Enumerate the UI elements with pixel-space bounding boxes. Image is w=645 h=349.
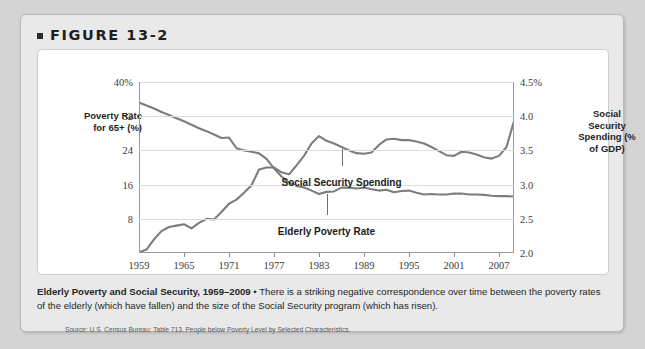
right-axis-tick-label: 3.0 xyxy=(520,179,533,190)
x-axis-tick-label: 1971 xyxy=(219,260,240,271)
left-axis-tick-label: 32 xyxy=(123,111,134,122)
caption-separator: • xyxy=(251,286,260,297)
right-axis-tick-label: 4.5% xyxy=(520,77,542,88)
x-axis-tick-label: 1965 xyxy=(174,260,195,271)
x-axis-tick-mark xyxy=(229,253,230,257)
x-axis-tick-mark xyxy=(319,253,320,257)
x-axis-tick-label: 1977 xyxy=(264,260,285,271)
plot-top-border xyxy=(139,82,514,83)
x-axis-tick-mark xyxy=(499,253,500,257)
x-axis-tick-mark xyxy=(454,253,455,257)
plot-left-axis xyxy=(139,82,140,253)
x-axis-tick-label: 1959 xyxy=(129,260,150,271)
x-axis-tick-label: 1983 xyxy=(309,260,330,271)
right-axis-tick-label: 4.0 xyxy=(520,111,533,122)
series-annotation-label: Social Security Spending xyxy=(281,177,401,188)
gridline xyxy=(139,116,514,117)
x-axis-tick-label: 2007 xyxy=(489,260,510,271)
series-annotation-label: Elderly Poverty Rate xyxy=(278,226,375,237)
x-axis-tick-label: 2001 xyxy=(444,260,465,271)
left-axis-tick-label: 8 xyxy=(128,213,133,224)
figure-page: FIGURE 13-2 Poverty Rate for 65+ (%) Soc… xyxy=(0,0,645,349)
right-axis-title: Social Security Spending (% of GDP) xyxy=(574,108,640,154)
figure-card: FIGURE 13-2 Poverty Rate for 65+ (%) Soc… xyxy=(20,14,624,332)
gridline xyxy=(139,150,514,151)
chart-panel: Poverty Rate for 65+ (%) Social Security… xyxy=(37,49,609,275)
plot-bottom-axis xyxy=(139,252,514,253)
figure-number-label: FIGURE 13-2 xyxy=(50,27,169,43)
annotation-leader-line xyxy=(342,149,343,166)
figure-caption: Elderly Poverty and Social Security, 195… xyxy=(37,285,611,313)
right-axis-tick-label: 3.5 xyxy=(520,145,533,156)
right-axis-tick-label: 2.5 xyxy=(520,213,533,224)
caption-divider xyxy=(37,318,611,319)
left-axis-tick-label: 40% xyxy=(114,77,133,88)
x-axis-tick-label: 1989 xyxy=(354,260,375,271)
plot-right-axis xyxy=(513,82,514,253)
source-note: Source: U.S. Census Bureau: Table 713. P… xyxy=(65,326,605,333)
x-axis-tick-mark xyxy=(274,253,275,257)
plot-area: 40%3224168 4.5%4.03.53.02.52.0 195919651… xyxy=(139,82,514,253)
x-axis-tick-mark xyxy=(409,253,410,257)
gridline xyxy=(139,219,514,220)
caption-title: Elderly Poverty and Social Security, 195… xyxy=(37,286,251,297)
left-axis-tick-label: 24 xyxy=(123,145,134,156)
figure-header: FIGURE 13-2 xyxy=(37,27,169,43)
x-axis-tick-mark xyxy=(184,253,185,257)
x-axis-tick-mark xyxy=(364,253,365,257)
left-axis-tick-label: 16 xyxy=(123,179,134,190)
right-axis-tick-label: 2.0 xyxy=(520,248,533,259)
x-axis-tick-label: 1995 xyxy=(399,260,420,271)
square-bullet-icon xyxy=(37,33,43,39)
annotation-leader-line xyxy=(327,194,328,215)
